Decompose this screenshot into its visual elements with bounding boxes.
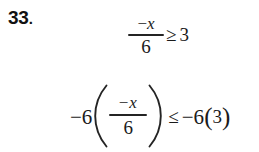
fraction-numerator: −x — [135, 15, 156, 34]
fraction-denominator: 6 — [141, 36, 151, 57]
relation-less-equal: ≤ — [168, 106, 178, 128]
inner-minus-sign: − — [119, 93, 130, 112]
problem-number-value: 33 — [8, 7, 29, 28]
open-paren-large-icon — [92, 84, 109, 148]
inner-variable-x: x — [129, 93, 138, 112]
right-side-value: 3 — [179, 24, 189, 46]
relation-greater-equal: ≥ — [166, 24, 176, 46]
close-paren-large-icon — [147, 84, 164, 148]
left-coefficient: −6 — [70, 105, 92, 130]
inner-fraction-numerator: −x — [117, 94, 140, 113]
inner-fraction-neg-x-over-6: −x 6 — [109, 94, 147, 139]
right-value: 3 — [212, 106, 222, 128]
inner-fraction-denominator: 6 — [124, 116, 134, 138]
equation-line-2: −6 −x 6 ≤ −6 ( 3 ) — [70, 84, 230, 148]
variable-x: x — [147, 14, 155, 33]
worksheet-problem: 33. −x 6 ≥ 3 −6 −x 6 ≤ −6 — [0, 0, 259, 152]
fraction-neg-x-over-6: −x 6 — [128, 15, 164, 58]
equation-line-1: −x 6 ≥ 3 — [128, 8, 189, 64]
right-close-paren: ) — [222, 107, 230, 127]
problem-number: 33. — [8, 8, 33, 27]
right-open-paren: ( — [204, 107, 212, 127]
problem-number-punctuation: . — [29, 10, 33, 27]
right-coefficient: −6 — [182, 105, 204, 130]
minus-sign: − — [137, 14, 147, 33]
